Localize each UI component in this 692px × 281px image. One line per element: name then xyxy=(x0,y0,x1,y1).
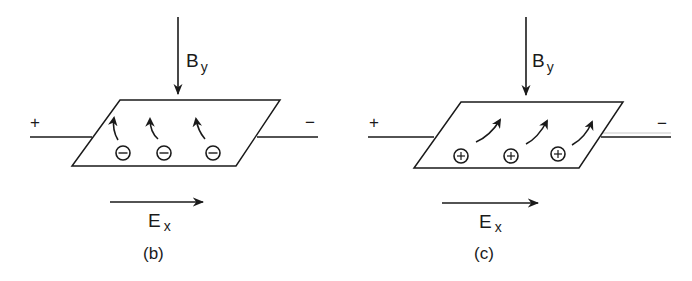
negative-terminal-sign: − xyxy=(305,113,315,132)
electron-icon xyxy=(157,146,171,160)
positive-terminal-sign: + xyxy=(30,113,40,132)
hole-icon xyxy=(551,147,565,161)
negative-terminal-sign: − xyxy=(657,114,667,133)
electric-field-label: Ex xyxy=(479,211,502,235)
hall-effect-diagram: By + − Ex (b) By xyxy=(0,0,692,281)
panel-caption-b: (b) xyxy=(143,244,164,263)
panel-caption-c: (c) xyxy=(474,244,494,263)
semiconductor-slab xyxy=(72,100,280,166)
electric-field-label: Ex xyxy=(148,210,171,234)
electron-icon xyxy=(116,146,130,160)
positive-terminal-sign: + xyxy=(369,113,379,132)
hole-icon xyxy=(504,149,518,163)
magnetic-field-label: By xyxy=(186,50,208,75)
panel-c: By + − Ex (c) xyxy=(368,17,671,263)
hole-icon xyxy=(454,149,468,163)
magnetic-field-label: By xyxy=(532,50,554,75)
electron-icon xyxy=(206,146,220,160)
panel-b: By + − Ex (b) xyxy=(30,17,318,263)
